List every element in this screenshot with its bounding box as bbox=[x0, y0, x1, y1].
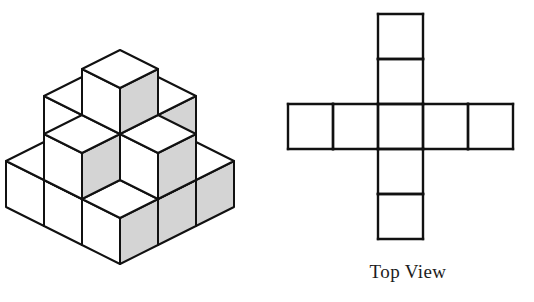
top-view-cell bbox=[378, 104, 423, 149]
figure-root: Top View bbox=[0, 0, 534, 302]
isometric-cube-stack bbox=[0, 0, 290, 302]
top-view-caption: Top View bbox=[282, 262, 534, 281]
top-view-cell bbox=[468, 104, 513, 149]
top-view-cell bbox=[378, 14, 423, 59]
isometric-view-panel bbox=[0, 0, 290, 302]
top-view-cell bbox=[333, 104, 378, 149]
top-view-cell bbox=[378, 194, 423, 239]
top-view-cell bbox=[423, 104, 468, 149]
top-view-cell bbox=[378, 149, 423, 194]
top-view-cross-grid bbox=[282, 0, 534, 262]
top-view-cell bbox=[288, 104, 333, 149]
top-view-panel: Top View bbox=[282, 0, 534, 302]
top-view-cell bbox=[378, 59, 423, 104]
cube bbox=[82, 50, 158, 134]
